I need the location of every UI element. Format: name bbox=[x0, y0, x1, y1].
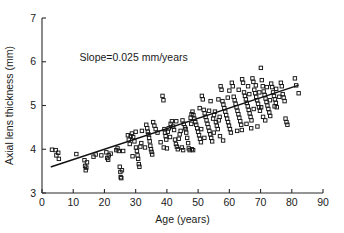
data-point bbox=[254, 95, 257, 98]
data-point bbox=[92, 155, 95, 158]
data-point bbox=[140, 129, 143, 132]
data-point bbox=[134, 130, 137, 133]
data-point bbox=[252, 80, 255, 83]
axes-group bbox=[42, 18, 323, 193]
data-point bbox=[220, 88, 223, 91]
data-point bbox=[259, 66, 262, 69]
data-point bbox=[190, 122, 193, 125]
data-point bbox=[242, 91, 245, 94]
data-point bbox=[297, 92, 300, 95]
data-point bbox=[238, 116, 241, 119]
data-point bbox=[139, 145, 142, 148]
x-tick-label-60: 60 bbox=[223, 196, 235, 208]
regression-line-group bbox=[51, 85, 298, 166]
data-point bbox=[211, 117, 214, 120]
data-point bbox=[181, 119, 184, 122]
data-point bbox=[252, 107, 255, 110]
data-point bbox=[151, 120, 154, 123]
data-point bbox=[206, 122, 209, 125]
data-point bbox=[217, 98, 220, 101]
data-point bbox=[185, 131, 188, 134]
data-point bbox=[168, 135, 171, 138]
data-point bbox=[226, 96, 229, 99]
data-point bbox=[266, 104, 269, 107]
data-point bbox=[210, 140, 213, 143]
data-point bbox=[57, 157, 60, 160]
data-point bbox=[149, 144, 152, 147]
data-point bbox=[218, 115, 221, 118]
data-point bbox=[128, 142, 131, 145]
y-tick-label-7: 7 bbox=[30, 12, 36, 24]
x-tick-label-70: 70 bbox=[255, 196, 267, 208]
data-point bbox=[148, 140, 151, 143]
data-point bbox=[260, 78, 263, 81]
data-point bbox=[274, 101, 277, 104]
data-point bbox=[227, 124, 230, 127]
data-point bbox=[161, 94, 164, 97]
data-point bbox=[265, 100, 268, 103]
regression-line bbox=[51, 85, 298, 166]
data-point bbox=[100, 154, 103, 157]
data-point bbox=[250, 119, 253, 122]
data-point bbox=[207, 109, 210, 112]
data-point bbox=[268, 99, 271, 102]
data-point bbox=[203, 112, 206, 115]
data-point bbox=[230, 81, 233, 84]
data-point bbox=[249, 115, 252, 118]
data-point bbox=[262, 90, 265, 93]
data-point bbox=[221, 139, 224, 142]
y-tick-label-4: 4 bbox=[30, 143, 36, 155]
data-point bbox=[228, 89, 231, 92]
data-point bbox=[281, 92, 284, 95]
data-point bbox=[153, 124, 156, 127]
data-point bbox=[253, 88, 256, 91]
data-point bbox=[239, 120, 242, 123]
data-point bbox=[146, 127, 149, 130]
data-point bbox=[246, 85, 249, 88]
data-point bbox=[164, 134, 167, 137]
data-point bbox=[270, 85, 273, 88]
data-point bbox=[136, 157, 139, 160]
data-point bbox=[240, 123, 243, 126]
y-tick-label-5: 5 bbox=[30, 99, 36, 111]
data-point bbox=[197, 134, 200, 137]
data-point bbox=[240, 128, 243, 131]
data-point bbox=[261, 85, 264, 88]
data-point bbox=[228, 127, 231, 130]
scatter-plot-figure: 010203040506070809034567Age (years)Axial… bbox=[0, 0, 344, 233]
data-point bbox=[258, 91, 261, 94]
data-point bbox=[237, 113, 240, 116]
x-tick-label-30: 30 bbox=[130, 196, 142, 208]
data-point bbox=[186, 141, 189, 144]
data-point bbox=[282, 96, 285, 99]
data-point bbox=[257, 106, 260, 109]
data-point bbox=[201, 98, 204, 101]
data-point bbox=[248, 112, 251, 115]
data-point bbox=[235, 129, 238, 132]
data-point bbox=[209, 133, 212, 136]
data-point bbox=[159, 141, 162, 144]
data-points-group bbox=[50, 66, 300, 180]
data-point bbox=[274, 87, 277, 90]
x-tick-label-10: 10 bbox=[67, 196, 79, 208]
data-point bbox=[264, 119, 267, 122]
data-point bbox=[154, 127, 157, 130]
data-point bbox=[121, 149, 124, 152]
data-point bbox=[134, 146, 137, 149]
data-point bbox=[209, 99, 212, 102]
data-point bbox=[264, 97, 267, 100]
data-point bbox=[232, 95, 235, 98]
data-point bbox=[259, 106, 262, 109]
data-point bbox=[243, 94, 246, 97]
data-point bbox=[233, 99, 236, 102]
data-point bbox=[269, 82, 272, 85]
data-point bbox=[118, 165, 121, 168]
data-point bbox=[221, 99, 224, 102]
data-point bbox=[240, 78, 243, 81]
data-point bbox=[50, 148, 53, 151]
x-tick-label-50: 50 bbox=[192, 196, 204, 208]
data-point bbox=[216, 127, 219, 130]
data-point bbox=[249, 127, 252, 130]
data-point bbox=[222, 103, 225, 106]
slope-annotation: Slope=0.025 mm/years bbox=[79, 51, 187, 63]
